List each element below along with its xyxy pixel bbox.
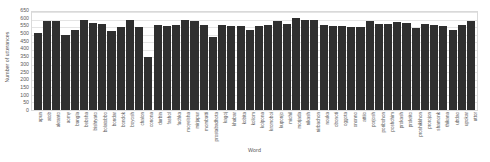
bar (329, 26, 337, 110)
x-axis-tick: shamonk (431, 112, 439, 146)
bar (264, 25, 272, 110)
bar-chart: Number of utterances 6506005505004504003… (0, 0, 490, 162)
x-axis-tick: poribohon (376, 112, 384, 146)
y-axis-tick-label: 600 (20, 16, 29, 21)
bar (458, 25, 466, 110)
x-axis-tick: khabar (227, 112, 235, 146)
bar (255, 26, 263, 110)
x-axis-tick: bebsha (79, 112, 87, 146)
x-axis-tick: bondok (116, 112, 124, 146)
y-axis-tick-label: 350 (20, 54, 29, 59)
bar (449, 30, 457, 110)
bar (154, 25, 162, 110)
x-axis-tick: fashol (162, 112, 170, 146)
y-axis-tick-label: 400 (20, 47, 29, 52)
x-axis-title: Word (31, 147, 478, 153)
x-axis-tick: michil (283, 112, 291, 146)
x-axis-tick: upokar (459, 112, 467, 146)
bar (218, 25, 226, 110)
x-axis-tick-label: uttor (474, 112, 479, 121)
x-axis-tick: fuchka (172, 112, 180, 146)
plot-area (31, 11, 478, 111)
y-axis-tick-label: 50 (23, 101, 29, 106)
x-axis-tick: nikash (301, 112, 309, 146)
bar (347, 27, 355, 110)
x-axis-tick: moyelsha (181, 112, 189, 146)
y-axis-tick-label: 450 (20, 39, 29, 44)
y-axis-tick-label: 150 (20, 85, 29, 90)
x-axis-tick: attiio (357, 112, 365, 146)
x-axis-tick: ubdao (450, 112, 458, 146)
x-axis-tick: porjosh (366, 112, 374, 146)
bar (80, 20, 88, 110)
y-axis-tick-label: 200 (20, 78, 29, 83)
y-axis-title-text: Number of utterances (4, 32, 10, 83)
bar (43, 21, 51, 110)
x-axis-tick: aomy (61, 112, 69, 146)
bar (126, 20, 134, 110)
bar (52, 21, 60, 110)
bar-series (32, 12, 477, 110)
y-axis-tick-label: 650 (20, 8, 29, 13)
y-axis-tick-label: 550 (20, 24, 29, 29)
bar (338, 26, 346, 110)
x-axis-tick: bondar (107, 112, 115, 146)
x-axis-tick: proshikkhon (413, 112, 421, 146)
bar (384, 24, 392, 110)
bar (209, 37, 217, 110)
bar (172, 25, 180, 110)
x-axis-tick: kromoboi (264, 112, 272, 146)
bar (320, 25, 328, 110)
x-axis-tick: prorojon (422, 112, 430, 146)
x-axis-tick-labels: apunatobakrantoaomybanglabebshabishtyato… (31, 112, 478, 146)
x-axis-tick: kuponjo (274, 112, 282, 146)
x-axis-tick: kobita (237, 112, 245, 146)
bar (71, 30, 79, 110)
y-axis-tick-label: 100 (20, 93, 29, 98)
bar (412, 28, 420, 110)
x-axis-tick: prokash (394, 112, 402, 146)
bar (273, 21, 281, 110)
x-axis-tick: chalon (135, 112, 143, 146)
x-axis-tick: koliom (246, 112, 254, 146)
bar (246, 30, 254, 111)
bar (144, 57, 152, 110)
bar (163, 26, 171, 110)
y-axis-tick-label: 500 (20, 31, 29, 36)
bar (98, 24, 106, 110)
x-axis-tick: prostabadhota (209, 112, 217, 146)
bar (375, 24, 383, 110)
x-axis-tick: bolatobbo (98, 112, 106, 146)
bar (34, 33, 42, 110)
bar (366, 21, 374, 110)
x-axis-tick: mombatti (200, 112, 208, 146)
gridline (32, 110, 477, 111)
x-axis-tick: conona (144, 112, 152, 146)
bar (393, 22, 401, 111)
x-axis-tick: boyosh (125, 112, 133, 146)
y-axis-tick-label: 0 (26, 108, 29, 113)
bar (190, 21, 198, 110)
bar (439, 26, 447, 110)
x-axis-tick: oggota (339, 112, 347, 146)
x-axis-tick: bishtyato (88, 112, 96, 146)
bar (200, 25, 208, 110)
x-axis-tick: poshchim (385, 112, 393, 146)
bar (430, 25, 438, 110)
x-axis-tick: kolpona (255, 112, 263, 146)
bar (107, 31, 115, 110)
bar (356, 27, 364, 110)
y-axis-tick-label: 300 (20, 62, 29, 67)
x-axis-tick: nirbachon (311, 112, 319, 146)
y-axis-tick-labels: 650600550500450400350300250200150100500 (12, 11, 29, 111)
x-axis-tick: nouka (320, 112, 328, 146)
x-axis-tick: durbin (153, 112, 161, 146)
bar (237, 26, 245, 110)
bar (310, 20, 318, 110)
x-axis-tick: obonoti (329, 112, 337, 146)
bar (227, 26, 235, 110)
x-axis-tick: thikana (440, 112, 448, 146)
bar (89, 23, 97, 110)
bar (467, 21, 475, 110)
bar (61, 35, 69, 110)
